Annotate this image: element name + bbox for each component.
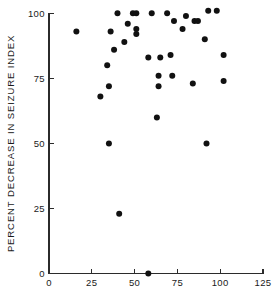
data-point <box>202 36 208 42</box>
axes <box>49 13 263 273</box>
data-point <box>121 39 127 45</box>
y-tick-label-25: 25 <box>34 203 45 214</box>
data-point <box>145 55 151 61</box>
data-point <box>145 271 151 277</box>
y-tick-label-0: 0 <box>39 268 45 279</box>
data-point <box>204 140 210 146</box>
y-tick-label-50: 50 <box>34 138 45 149</box>
data-point <box>168 52 174 58</box>
data-point <box>114 10 120 16</box>
data-point <box>183 13 189 19</box>
data-point <box>195 18 201 24</box>
data-point <box>221 78 227 84</box>
data-point <box>97 94 103 100</box>
data-point <box>156 73 162 79</box>
y-tick-label-75: 75 <box>34 73 45 84</box>
data-point <box>171 18 177 24</box>
x-tick-label-50: 50 <box>129 277 140 288</box>
scatter-plot-figure: 02550751000255075100125 PERCENT DECREASE… <box>0 0 280 304</box>
data-point <box>108 29 114 35</box>
y-tick-label-100: 100 <box>28 8 45 19</box>
data-point <box>154 114 160 120</box>
x-axis-line <box>49 270 263 274</box>
data-point <box>149 10 155 16</box>
data-points <box>73 8 226 277</box>
data-point <box>205 8 211 14</box>
plot-canvas: 02550751000255075100125 PERCENT DECREASE… <box>0 0 280 304</box>
data-point <box>180 26 186 32</box>
x-tick-label-125: 125 <box>254 277 271 288</box>
axis-tick-labels: 02550751000255075100125 <box>28 8 272 288</box>
data-point <box>169 73 175 79</box>
data-point <box>116 211 122 217</box>
data-point <box>214 8 220 14</box>
data-point <box>156 83 162 89</box>
data-point <box>125 21 131 27</box>
data-point <box>190 81 196 87</box>
data-point <box>133 10 139 16</box>
data-point <box>157 55 163 61</box>
data-point <box>164 10 170 16</box>
data-point <box>73 29 79 35</box>
data-point <box>221 52 227 58</box>
x-tick-label-0: 0 <box>46 277 52 288</box>
y-axis-title-text: PERCENT DECREASE IN SEIZURE INDEX <box>5 35 16 252</box>
x-tick-label-75: 75 <box>172 277 183 288</box>
data-point <box>104 62 110 68</box>
data-point <box>133 31 139 37</box>
data-point <box>106 83 112 89</box>
data-point <box>106 140 112 146</box>
x-tick-label-25: 25 <box>86 277 97 288</box>
data-point <box>133 26 139 32</box>
axis-ticks <box>49 13 263 273</box>
data-point <box>111 47 117 53</box>
y-axis-title: PERCENT DECREASE IN SEIZURE INDEX <box>5 35 16 252</box>
x-tick-label-100: 100 <box>212 277 229 288</box>
